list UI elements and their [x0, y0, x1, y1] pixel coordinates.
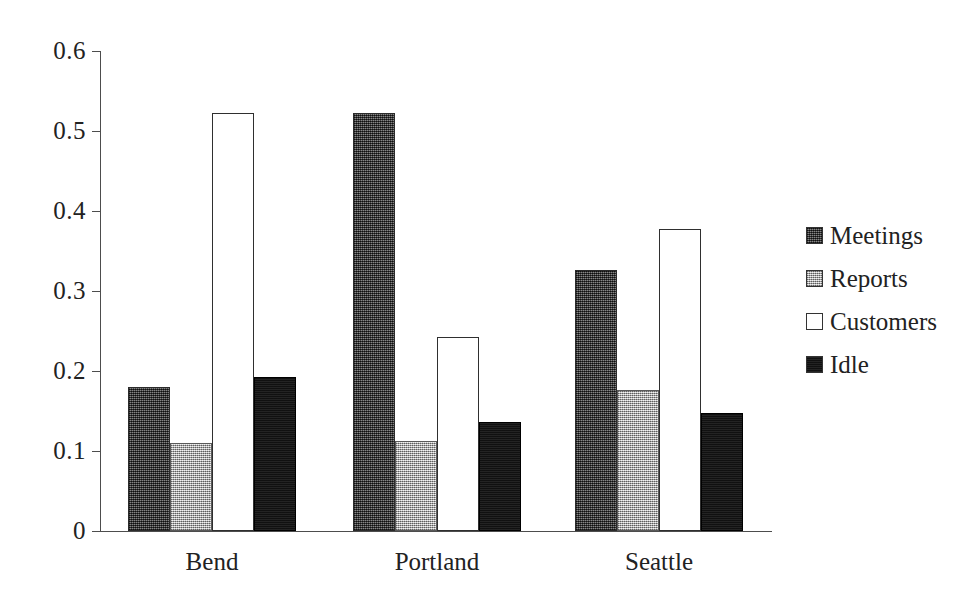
bar-idle-portland: [479, 422, 521, 531]
x-axis-label-seattle: Seattle: [535, 548, 783, 576]
legend-item-customers[interactable]: Customers: [806, 300, 971, 343]
legend-label-reports: Reports: [830, 265, 908, 293]
bar-reports-seattle: [617, 390, 659, 531]
bar-chart: 00.10.20.30.40.50.6 BendPortlandSeattle …: [0, 0, 974, 597]
chart-legend: MeetingsReportsCustomersIdle: [806, 214, 971, 386]
bar-customers-bend: [212, 113, 254, 531]
x-axis-label-bend: Bend: [88, 548, 336, 576]
bar-meetings-portland: [353, 113, 395, 531]
legend-item-idle[interactable]: Idle: [806, 343, 971, 386]
bar-idle-bend: [254, 377, 296, 531]
legend-item-reports[interactable]: Reports: [806, 257, 971, 300]
legend-swatch-icon-idle: [806, 356, 823, 373]
bar-reports-bend: [170, 443, 212, 531]
bar-customers-portland: [437, 337, 479, 531]
legend-label-idle: Idle: [830, 351, 869, 379]
bar-idle-seattle: [701, 413, 743, 531]
legend-item-meetings[interactable]: Meetings: [806, 214, 971, 257]
legend-swatch-icon-customers: [806, 313, 823, 330]
bar-meetings-bend: [128, 387, 170, 531]
bar-customers-seattle: [659, 229, 701, 531]
plot-area: [0, 0, 780, 532]
x-axis-label-portland: Portland: [313, 548, 561, 576]
bar-meetings-seattle: [575, 270, 617, 531]
legend-swatch-icon-meetings: [806, 227, 823, 244]
legend-swatch-icon-reports: [806, 270, 823, 287]
legend-label-customers: Customers: [830, 308, 937, 336]
bar-reports-portland: [395, 441, 437, 531]
legend-label-meetings: Meetings: [830, 222, 923, 250]
